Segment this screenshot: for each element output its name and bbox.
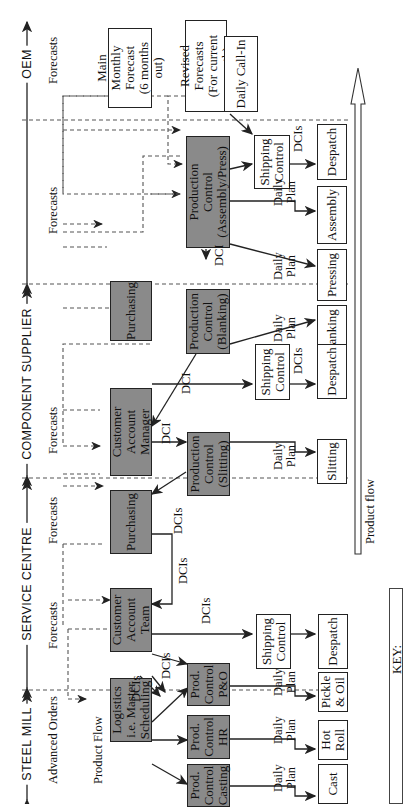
customer-account-team: Customer Account Team [110,588,152,652]
dcis-label-cat-po: DCIs [160,653,173,679]
dci-label-blanking-cam: DCI [180,372,193,394]
production-control-assembly-press: Production Control (Assembly/Press) [186,136,230,248]
dcis-label-slitting-purch: DCIs [172,508,185,534]
product-flow-small-label: Product Flow [92,716,105,784]
pickle-oil-box: Pickle & Oil [318,672,348,712]
section-component-supplier: COMPONENT SUPPLIER [20,304,34,464]
dci-label-sc: DCI [160,422,173,444]
daily-plan-blanking: Daily Plan [272,314,298,342]
forecasts-label-sm: Forecasts [47,602,60,649]
prod-control-po: Prod. Control P&O [187,663,230,706]
despatch-steel-mill: Despatch [318,614,348,669]
purchasing-component-supplier: Purchasing [110,281,152,341]
section-service-centre: SERVICE CENTRE [20,523,34,645]
dcis-label-cs-despatch: DCIs [292,126,305,152]
dci-label-cs: DCI [213,244,226,266]
forecasts-label-sc1: Forecasts [47,407,60,454]
purchasing-service-centre: Purchasing [110,490,152,554]
daily-plan-pickle-oil: Daily Plan [272,668,298,696]
key-box [389,588,403,804]
hot-roll-box: Hot Roll [318,720,348,760]
advanced-orders-label: Advanced Orders [47,696,60,784]
daily-call-in-box: Daily Call-In [224,36,258,112]
dcis-label-cat-shipping: DCIs [200,598,213,624]
assembly-box: Assembly [317,186,347,244]
shipping-control-steel-mill: Shipping Control [256,614,291,669]
daily-plan-hot-roll: Daily Plan [272,716,298,744]
despatch-service-centre: Despatch [317,344,347,399]
production-control-blanking: Production Control (Blanking) [186,289,230,354]
forecasts-label-cs2: Forecasts [47,187,60,234]
daily-plan-assembly: Daily Plan [272,178,298,206]
customer-account-manager: Customer Account Manager [110,388,152,476]
key-label: KEY: [389,645,403,674]
slitting-box: Slitting [317,439,347,484]
dcis-label-purch-cat: DCIs [177,558,190,584]
revised-forecasts-box: Revised Forecasts (For current month) [185,20,227,112]
prod-control-hr: Prod. Control HR [187,715,230,759]
dcis-label-sc-despatch: DCIs [292,348,305,374]
main-monthly-forecast-box: Main Monthly Forecast (6 months out) [108,28,152,108]
section-oem: OEM [20,45,34,82]
daily-plan-cast: Daily Plan [272,764,298,792]
forecasts-label-sc2: Forecasts [47,497,60,544]
dcis-label-cat-logistics: DCIs [130,676,143,702]
daily-plan-pressing: Daily Plan [272,252,298,280]
production-control-slitting: Production Control (Slitting) [187,432,230,496]
prod-control-casting: Prod. Control Casting [187,764,230,807]
daily-plan-slitting: Daily Plan [272,442,298,470]
despatch-component-supplier: Despatch [317,124,347,180]
section-steel-mill: STEEL MILL [20,703,34,784]
product-flow-label: Product flow [364,475,377,548]
forecasts-label-cs1: Forecasts [47,37,60,84]
pressing-box: Pressing [317,249,347,301]
shipping-control-service-centre: Shipping Control [255,344,290,400]
cast-box: Cast [318,764,348,804]
